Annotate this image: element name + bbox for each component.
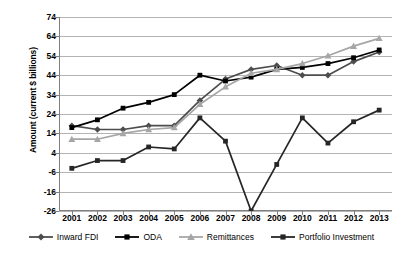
chart-legend: Inward FDIODARemittancesPortfolio Invest… bbox=[0, 232, 402, 242]
x-axis-tick-label: 2013 bbox=[364, 214, 394, 223]
legend-label: Inward FDI bbox=[57, 233, 99, 242]
legend-item-remittances[interactable]: Remittances bbox=[178, 232, 254, 242]
legend-item-oda[interactable]: ODA bbox=[114, 232, 161, 242]
series-layer bbox=[59, 17, 392, 211]
legend-label: ODA bbox=[143, 233, 161, 242]
series-portfolio-investment bbox=[69, 108, 381, 211]
legend-item-portfolio-investment[interactable]: Portfolio Investment bbox=[270, 232, 374, 242]
square-marker-icon bbox=[114, 232, 140, 242]
legend-item-inward-fdi[interactable]: Inward FDI bbox=[28, 232, 99, 242]
diamond-marker-icon bbox=[28, 232, 54, 242]
triangle-marker-icon bbox=[178, 232, 204, 242]
legend-label: Portfolio Investment bbox=[299, 233, 374, 242]
square-marker-icon bbox=[270, 232, 296, 242]
legend-label: Remittances bbox=[207, 233, 254, 242]
chart-container: Amount (current $ billions) 746454443424… bbox=[0, 0, 402, 259]
series-remittances bbox=[68, 35, 382, 142]
